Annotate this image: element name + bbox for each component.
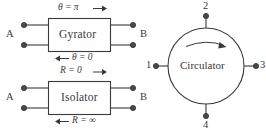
isolator-terminal-b-bottom (130, 105, 135, 110)
isolator-bottom-arrow-icon (55, 119, 69, 125)
circulator-terminal-1 (153, 63, 158, 68)
circulator-port-3-label: 3 (260, 60, 265, 71)
circulator-terminal-4 (203, 113, 208, 118)
circulator-port-2-label: 2 (203, 1, 208, 12)
gyrator-top-arrow-icon (93, 6, 107, 12)
isolator-terminal-a-bottom (21, 105, 26, 110)
isolator-port-a-label: A (6, 92, 14, 103)
gyrator-bottom-label: θ = 0 (72, 53, 93, 63)
gyrator-title: Gyrator (59, 29, 96, 41)
gyrator-terminal-b-top (130, 22, 135, 27)
gyrator-bottom-arrow-icon (55, 56, 69, 62)
circulator-title: Circulator (180, 60, 225, 71)
circulator-port-1-label: 1 (146, 60, 151, 71)
gyrator-top-label: θ = π (58, 3, 79, 13)
isolator-terminal-b-top (130, 85, 135, 90)
gyrator-port-a-label: A (6, 29, 14, 40)
gyrator-terminal-a-bottom (21, 42, 26, 47)
isolator-title: Isolator (61, 92, 98, 104)
gyrator-terminal-a-top (21, 22, 26, 27)
gyrator-port-b-label: B (140, 29, 147, 40)
gyrator-terminal-b-bottom (130, 42, 135, 47)
figure-canvas: θ = π Gyrator θ = 0 A B R = 0 Isolator R… (0, 0, 266, 132)
circulator-terminal-2 (203, 13, 208, 18)
circulator-terminal-3 (253, 63, 258, 68)
isolator-bottom-label: R = ∞ (72, 116, 96, 126)
isolator-terminal-a-top (21, 85, 26, 90)
isolator-top-arrow-icon (93, 69, 107, 75)
isolator-port-b-label: B (140, 92, 147, 103)
isolator-top-label: R = 0 (60, 66, 82, 76)
circulator-port-4-label: 4 (203, 120, 208, 131)
schematic-svg (0, 0, 266, 132)
